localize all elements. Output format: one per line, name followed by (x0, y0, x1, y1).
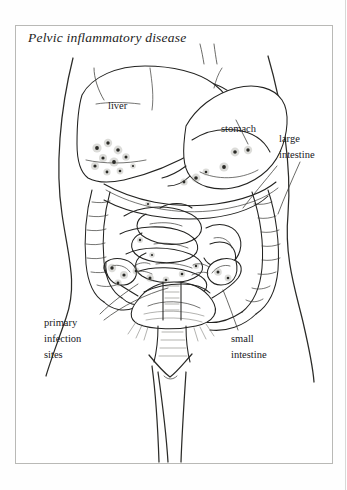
label-primary-infection-sites: primary infection sites (44, 315, 81, 363)
label-primary-line3: sites (44, 347, 81, 363)
label-large-intestine-line1: large (279, 131, 315, 147)
label-large-intestine-line2: intestine (279, 147, 315, 163)
label-small-intestine: small intestine (231, 331, 267, 363)
leader-small-intestine (223, 290, 238, 330)
label-small-intestine-line2: intestine (231, 347, 267, 363)
rib-stroke-a (200, 44, 204, 64)
rib-stroke-b (214, 44, 217, 64)
label-large-intestine: large intestine (279, 131, 315, 163)
label-stomach-line1: stomach (221, 121, 256, 137)
label-primary-line1: primary (44, 315, 81, 331)
page: Pelvic inflammatory disease .s { fill:no… (0, 0, 347, 490)
label-liver-line1: liver (108, 98, 127, 114)
anatomy-illustration: .s { fill:none; stroke:#232321; stroke-w… (0, 0, 347, 490)
label-small-intestine-line1: small (231, 331, 267, 347)
label-stomach: stomach (221, 121, 256, 137)
label-primary-line2: infection (44, 331, 81, 347)
label-liver: liver (108, 98, 127, 114)
